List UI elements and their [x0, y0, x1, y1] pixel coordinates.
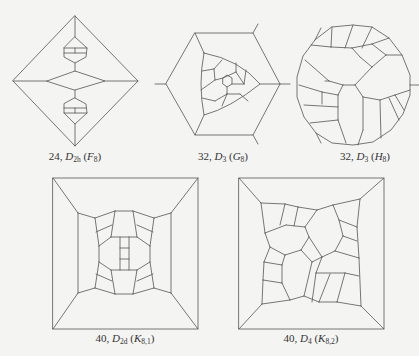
caption-f8: 24, D2h (F8): [49, 150, 102, 164]
graph-name: G: [233, 150, 241, 162]
caption-h8: 32, D3 (H8): [340, 150, 390, 164]
paren-close: ): [244, 150, 248, 162]
graph-g8: [155, 24, 290, 144]
caption-g8: 32, D3 (G8): [198, 150, 248, 164]
graph-h8: [297, 25, 419, 145]
graph-f8: [13, 16, 138, 146]
paren-close: ): [98, 150, 102, 162]
graph-name: H: [375, 150, 383, 162]
vertex-count: 24: [49, 150, 60, 162]
vertex-count: 40: [283, 332, 294, 344]
graph-name: K: [134, 332, 141, 344]
graph-name: K: [318, 332, 325, 344]
paren-close: ): [386, 150, 390, 162]
diagram-canvas: [0, 0, 419, 356]
graph-k82: [239, 178, 384, 329]
symmetry-subscript: 2h: [73, 155, 81, 164]
graph-k81: [53, 178, 198, 329]
vertex-count: 32: [198, 150, 209, 162]
vertex-count: 32: [340, 150, 351, 162]
vertex-count: 40: [96, 332, 107, 344]
caption-k82: 40, D4 (K8,2): [283, 332, 338, 346]
graph-subscript: 8,1: [141, 337, 150, 346]
graph-subscript: 8,2: [325, 337, 334, 346]
caption-k81: 40, D2d (K8,1): [96, 332, 155, 346]
paren-close: ): [151, 332, 155, 344]
symmetry-subscript: 2d: [120, 337, 128, 346]
paren-close: ): [335, 332, 339, 344]
